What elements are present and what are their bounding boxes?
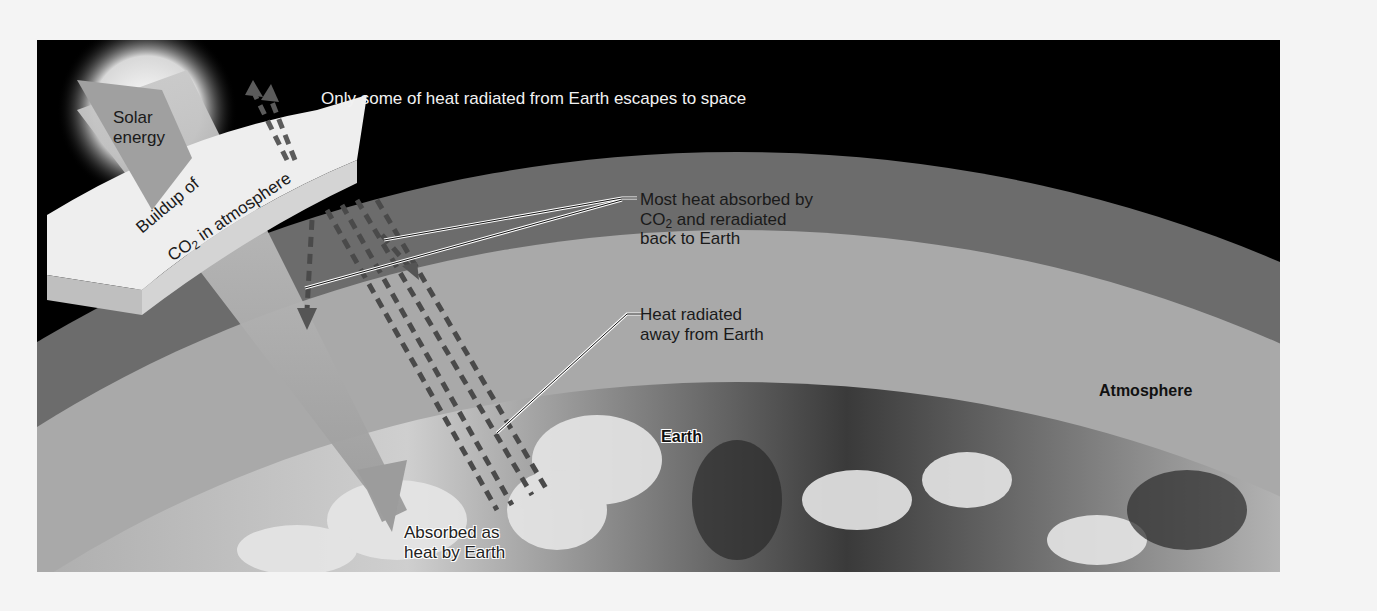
earth-label: Earth: [661, 428, 702, 446]
greenhouse-diagram: Solar energy Only some of heat radiated …: [37, 40, 1280, 572]
solar-energy-label: Solar energy: [113, 108, 165, 147]
most-heat-absorbed-label: Most heat absorbed by CO2 and reradiated…: [640, 190, 813, 249]
escapes-to-space-label: Only some of heat radiated from Earth es…: [321, 89, 746, 109]
heat-radiated-away-label: Heat radiated away from Earth: [640, 305, 764, 344]
absorbed-as-heat-label: Absorbed as heat by Earth: [404, 523, 505, 562]
atmosphere-label: Atmosphere: [1099, 382, 1192, 400]
